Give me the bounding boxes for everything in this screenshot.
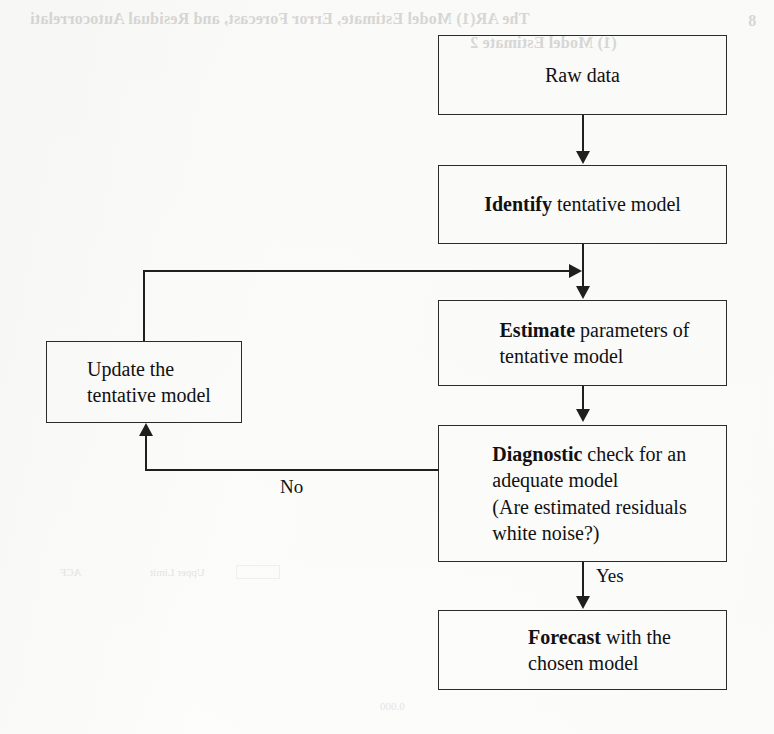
node-estimate-text: Estimate parameters of tentative model — [462, 317, 704, 370]
bleed-through-page-number: 8 — [748, 12, 756, 30]
connector-diagnostic-to-forecast — [582, 562, 584, 598]
node-diagnostic: Diagnostic check for an adequate model (… — [438, 425, 727, 562]
node-estimate: Estimate parameters of tentative model — [438, 300, 727, 386]
node-diagnostic-line-0-bold: Diagnostic — [492, 443, 582, 465]
arrowhead-identify-to-estimate — [576, 286, 590, 299]
connector-estimate-to-diagnostic — [582, 386, 584, 411]
arrowhead-yes-to-forecast — [576, 596, 590, 609]
no-path-horizontal-segment — [145, 469, 439, 471]
connector-identify-to-estimate — [582, 244, 584, 288]
node-diagnostic-text: Diagnostic check for an adequate model (… — [464, 441, 700, 547]
bleed-through-legend-swatch — [236, 565, 280, 579]
node-diagnostic-line-0-rest: check for an — [582, 443, 686, 465]
feedback-loop-horizontal-segment — [143, 270, 571, 272]
node-estimate-line-0-rest: parameters of — [575, 319, 689, 341]
node-forecast-line-1-rest: chosen model — [528, 652, 639, 674]
no-path-vertical-segment — [145, 436, 147, 470]
connector-raw-to-identify — [582, 115, 584, 153]
edge-label-yes: Yes — [596, 565, 624, 587]
node-identify: Identify tentative model — [438, 165, 727, 244]
node-raw-data-line-0-rest: Raw data — [545, 64, 620, 86]
edge-label-no: No — [280, 476, 303, 498]
bleed-through-heading: The AR(1) Model Estimate, Error Forecast… — [30, 10, 529, 28]
bleed-through-legend-acf: ACF — [60, 566, 81, 578]
feedback-loop-vertical-segment — [143, 270, 145, 342]
node-estimate-line-0-bold: Estimate — [500, 319, 576, 341]
node-update-text: Update the tentative model — [63, 356, 225, 409]
node-update-line-1-rest: tentative model — [87, 384, 211, 406]
arrowhead-raw-to-identify — [576, 151, 590, 164]
node-diagnostic-line-1-rest: adequate model — [492, 469, 618, 491]
node-identify-text: Identify tentative model — [470, 191, 695, 217]
node-forecast-line-0-bold: Forecast — [528, 626, 601, 648]
node-identify-line-0-rest: tentative model — [552, 193, 681, 215]
node-forecast-text: Forecast with the chosen model — [480, 624, 685, 677]
node-estimate-line-1-rest: tentative model — [500, 345, 624, 367]
bleed-through-legend-upper: Upper Limit — [150, 566, 205, 578]
bleed-through-footer-value: 0.000 — [380, 700, 405, 712]
arrowhead-estimate-to-diagnostic — [576, 409, 590, 422]
node-update: Update the tentative model — [46, 341, 242, 423]
node-forecast: Forecast with the chosen model — [438, 610, 727, 690]
node-diagnostic-line-2-rest: (Are estimated residuals — [492, 496, 686, 518]
node-identify-line-0-bold: Identify — [484, 193, 552, 215]
node-raw-data-text: Raw data — [531, 62, 634, 88]
node-raw-data: Raw data — [438, 35, 727, 115]
node-diagnostic-line-3-rest: white noise?) — [492, 522, 599, 544]
node-update-line-0-rest: Update the — [87, 358, 174, 380]
scanned-page: The AR(1) Model Estimate, Error Forecast… — [0, 0, 774, 734]
arrowhead-no-to-update — [139, 423, 153, 436]
arrowhead-update-to-estimate — [569, 264, 582, 278]
node-forecast-line-0-rest: with the — [601, 626, 671, 648]
